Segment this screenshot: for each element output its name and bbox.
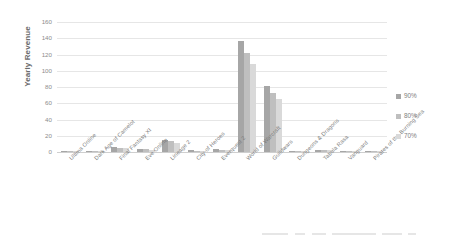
bar [250,64,256,152]
y-axis-tick-label: 80 [24,84,52,90]
legend-swatch-icon [396,94,401,99]
y-axis-tick-label: 60 [24,100,52,106]
bar-group [289,22,307,152]
x-axis-labels: Ultima OnlineDark Age of CamelotFinal Fa… [0,152,451,232]
bar-group [340,22,358,152]
legend-item[interactable]: 70% [396,132,448,140]
legend-item[interactable]: 80% [396,112,448,120]
y-axis-tick-label: 140 [24,35,52,41]
y-axis-tick-label: 160 [24,19,52,25]
bar-group [162,22,180,152]
legend-swatch-icon [396,114,401,119]
chart-legend: 90%80%70% [396,92,448,152]
chart-container: Yearly Revenue 020406080100120140160 Ult… [0,0,451,236]
bar-group [61,22,79,152]
legend-label: 70% [404,133,417,139]
y-axis-tick-label: 40 [24,117,52,123]
legend-swatch-icon [396,134,401,139]
bar-group [188,22,206,152]
y-axis-tick-label: 120 [24,52,52,58]
bar-group [86,22,104,152]
y-axis-tick-label: 100 [24,68,52,74]
legend-label: 90% [404,93,417,99]
legend-label: 80% [404,113,417,119]
legend-item[interactable]: 90% [396,92,448,100]
bar-group [365,22,383,152]
y-axis-tick-label: 20 [24,133,52,139]
bottom-edge-artifact [0,230,451,236]
bar-group [238,22,256,152]
